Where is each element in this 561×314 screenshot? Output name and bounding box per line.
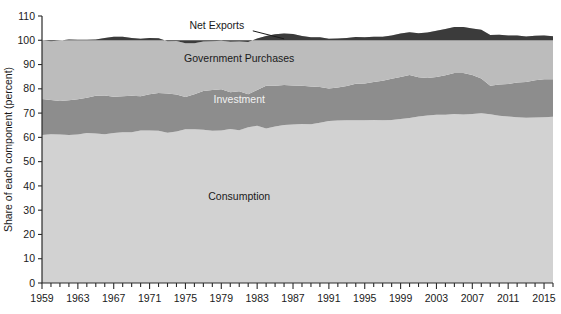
- x-tick-label: 1963: [66, 292, 90, 304]
- y-tick-label: 90: [23, 58, 35, 70]
- y-tick-label: 60: [23, 131, 35, 143]
- area-label-consumption: Consumption: [208, 190, 270, 202]
- x-tick-label: 2007: [461, 292, 485, 304]
- y-tick-label: 110: [18, 10, 35, 22]
- x-tick-label: 1983: [245, 292, 269, 304]
- area-label-net-exports: Net Exports: [189, 19, 244, 31]
- y-tick-label: 100: [17, 34, 35, 46]
- y-tick-label: 0: [29, 277, 35, 289]
- x-tick-label: 1971: [138, 292, 162, 304]
- y-tick-label: 30: [23, 204, 35, 216]
- y-tick-label: 20: [23, 228, 35, 240]
- y-tick-label: 50: [23, 155, 35, 167]
- x-tick-label: 1999: [389, 292, 413, 304]
- area-label-investment: Investment: [214, 93, 265, 105]
- y-tick-label: 70: [23, 107, 35, 119]
- x-tick-label: 2003: [425, 292, 449, 304]
- x-tick-label: 1991: [317, 292, 341, 304]
- area-consumption: [42, 113, 553, 283]
- stacked-area-chart: 0102030405060708090100110195919631967197…: [0, 0, 561, 314]
- x-tick-label: 1967: [102, 292, 126, 304]
- x-tick-label: 1959: [30, 292, 54, 304]
- x-tick-label: 1995: [353, 292, 377, 304]
- x-tick-label: 2011: [497, 292, 520, 304]
- x-tick-label: 2015: [532, 292, 556, 304]
- y-tick-label: 10: [23, 252, 35, 264]
- x-tick-label: 1979: [210, 292, 234, 304]
- x-tick-label: 1975: [174, 292, 198, 304]
- y-tick-label: 40: [23, 180, 35, 192]
- chart-canvas: 0102030405060708090100110195919631967197…: [0, 0, 561, 314]
- area-label-government-purchases: Government Purchases: [184, 52, 294, 64]
- y-axis-title: Share of each component (percent): [2, 67, 14, 232]
- y-tick-label: 80: [23, 82, 35, 94]
- x-tick-label: 1987: [281, 292, 305, 304]
